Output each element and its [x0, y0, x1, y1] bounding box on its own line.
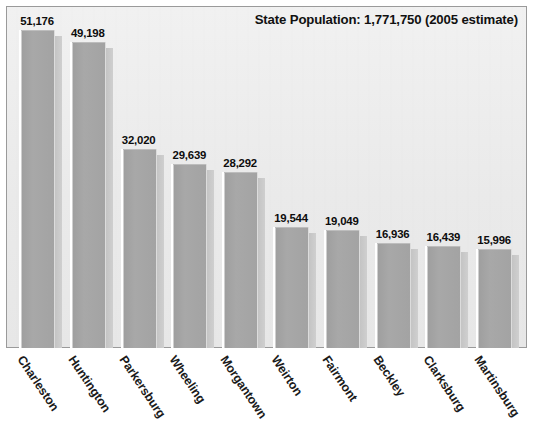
bar-shadow — [157, 155, 164, 348]
bar-shadow — [55, 36, 62, 348]
bar-value-label: 16,439 — [427, 231, 461, 243]
bar-value-label: 16,936 — [376, 228, 410, 240]
bar-value-label: 28,292 — [223, 157, 257, 169]
bar-body — [273, 227, 309, 348]
bar-body — [121, 149, 157, 348]
bar-top-highlight — [326, 230, 359, 231]
bar-top-highlight — [427, 246, 460, 247]
category-label-martinsburg: Martinsburg — [472, 353, 523, 419]
category-label-parkersburg: Parkersburg — [116, 353, 168, 420]
bar-wheeling[interactable]: 29,639 — [171, 164, 207, 348]
bar-shadow — [258, 178, 265, 348]
bar-weirton[interactable]: 19,544 — [273, 227, 309, 348]
bar-shadow — [360, 236, 367, 348]
bar-body — [425, 246, 461, 348]
bar-value-label: 49,198 — [71, 27, 105, 39]
bar-body — [375, 243, 411, 348]
bar-top-highlight — [275, 227, 308, 228]
bar-value-label: 32,020 — [122, 134, 156, 146]
bar-body — [222, 172, 258, 348]
bar-top-highlight — [72, 42, 105, 43]
bar-body — [19, 30, 55, 348]
category-label-charleston: Charleston — [14, 353, 61, 414]
bar-fairmont[interactable]: 19,049 — [324, 230, 360, 348]
bar-top-highlight — [173, 164, 206, 165]
bar-value-label: 19,544 — [274, 212, 308, 224]
bar-shadow — [207, 170, 214, 348]
bar-top-highlight — [224, 172, 257, 173]
bar-shadow — [106, 48, 113, 348]
bar-value-label: 15,996 — [477, 234, 511, 246]
bar-top-highlight — [478, 249, 511, 250]
bar-beckley[interactable]: 16,936 — [375, 243, 411, 348]
bar-shadow — [309, 233, 316, 348]
category-label-weirton: Weirton — [268, 353, 305, 398]
bar-value-label: 29,639 — [173, 149, 207, 161]
bar-body — [324, 230, 360, 348]
bar-value-label: 19,049 — [325, 215, 359, 227]
chart-title: State Population: 1,771,750 (2005 estima… — [255, 12, 518, 27]
bar-parkersburg[interactable]: 32,020 — [121, 149, 157, 348]
bar-top-highlight — [21, 30, 54, 31]
bar-top-highlight — [123, 149, 156, 150]
category-label-fairmont: Fairmont — [319, 353, 360, 404]
category-label-clarksburg: Clarksburg — [421, 353, 469, 414]
bar-body — [476, 249, 512, 348]
bar-morgantown[interactable]: 28,292 — [222, 172, 258, 348]
category-label-huntington: Huntington — [65, 353, 113, 415]
population-bar-chart: State Population: 1,771,750 (2005 estima… — [0, 0, 534, 429]
bar-value-label: 51,176 — [20, 15, 54, 27]
bar-shadow — [411, 249, 418, 348]
category-label-wheeling: Wheeling — [167, 353, 209, 406]
bar-body — [171, 164, 207, 348]
category-label-morgantown: Morgantown — [218, 353, 270, 421]
bar-body — [70, 42, 106, 348]
bar-charleston[interactable]: 51,176 — [19, 30, 55, 348]
bar-shadow — [461, 252, 468, 348]
bar-martinsburg[interactable]: 15,996 — [476, 249, 512, 348]
bar-shadow — [512, 255, 519, 348]
bar-top-highlight — [377, 243, 410, 244]
bar-clarksburg[interactable]: 16,439 — [425, 246, 461, 348]
bar-huntington[interactable]: 49,198 — [70, 42, 106, 348]
category-label-beckley: Beckley — [370, 353, 407, 399]
